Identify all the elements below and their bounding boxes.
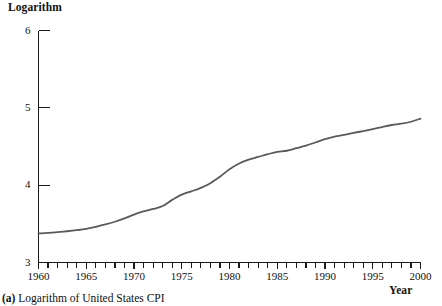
x-tick-label: 1960 (19, 270, 59, 282)
x-tick-label: 1980 (210, 270, 250, 282)
line-chart-plot (0, 0, 442, 306)
x-tick-label: 1965 (66, 270, 106, 282)
x-axis-title: Year (389, 284, 412, 296)
axes-group (39, 31, 421, 263)
x-tick-label: 1970 (114, 270, 154, 282)
y-tick-label: 6 (9, 24, 31, 36)
y-tick-label: 3 (9, 256, 31, 268)
y-tick-label: 4 (9, 178, 31, 190)
x-tick-label: 1995 (353, 270, 393, 282)
tick-marks-group (39, 31, 421, 269)
data-series-group (39, 119, 421, 234)
x-tick-label: 1985 (257, 270, 297, 282)
x-tick-label: 1975 (162, 270, 202, 282)
cpi-log-line (39, 119, 421, 234)
caption-identifier: (a) (2, 292, 15, 304)
figure-caption: (a) Logarithm of United States CPI (2, 292, 165, 304)
y-tick-label: 5 (9, 101, 31, 113)
x-tick-label: 1990 (305, 270, 345, 282)
figure-panel: Logarithm 3456 1960196519701975198019851… (0, 0, 442, 306)
caption-text: Logarithm of United States CPI (15, 292, 164, 304)
x-tick-label: 2000 (401, 270, 441, 282)
